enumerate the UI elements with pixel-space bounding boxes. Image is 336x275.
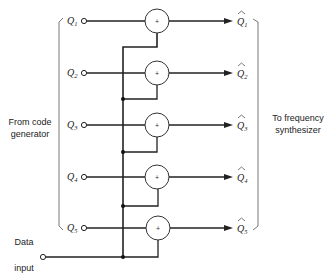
junction-dot	[121, 150, 125, 154]
svg-text:Q1: Q1	[67, 15, 77, 27]
row-4: Q4 + Q4	[67, 165, 248, 208]
row-1: Q1 + Q1	[67, 9, 247, 33]
junction-dot	[121, 204, 125, 208]
input-terminal[interactable]	[81, 122, 86, 127]
input-terminal[interactable]	[81, 174, 86, 179]
plus-icon: +	[155, 18, 159, 25]
hat-icon	[238, 63, 245, 66]
left-caption-line2: generator	[11, 129, 50, 139]
modulo-adder-diagram: From code generator To frequency synthes…	[0, 0, 336, 275]
data-input-terminal[interactable]	[40, 254, 45, 259]
data-input-wire	[46, 240, 158, 257]
input-terminal[interactable]	[81, 225, 86, 230]
arrow-icon	[224, 225, 233, 231]
data-input-line1: Data	[14, 237, 33, 247]
arrow-icon	[224, 70, 233, 76]
svg-text:Q4: Q4	[237, 172, 248, 184]
hat-icon	[238, 115, 245, 118]
data-input-line2: input	[14, 263, 34, 273]
svg-text:Q3: Q3	[67, 119, 78, 131]
svg-text:Q2: Q2	[67, 67, 78, 79]
plus-icon: +	[155, 70, 159, 77]
row-3: Q3 + Q3	[67, 113, 248, 154]
arrow-icon	[224, 18, 233, 24]
plus-icon: +	[155, 174, 159, 181]
svg-text:Q1: Q1	[237, 16, 247, 28]
svg-text:Q5: Q5	[237, 223, 248, 235]
svg-text:Q5: Q5	[67, 222, 78, 234]
plus-icon: +	[156, 225, 160, 232]
right-caption-line1: To frequency	[272, 113, 324, 123]
hat-icon	[238, 167, 245, 170]
junction-dot	[121, 255, 125, 259]
arrow-icon	[224, 174, 233, 180]
row-2: Q2 + Q2	[67, 61, 248, 101]
input-terminal[interactable]	[81, 70, 86, 75]
right-brace	[253, 19, 258, 230]
hat-icon	[238, 218, 245, 221]
right-caption-line2: synthesizer	[275, 125, 321, 135]
hat-icon	[238, 11, 245, 14]
arrow-icon	[224, 122, 233, 128]
plus-icon: +	[155, 122, 159, 129]
junction-dot	[121, 97, 125, 101]
input-terminal[interactable]	[81, 18, 86, 23]
svg-text:Q4: Q4	[67, 171, 78, 183]
svg-text:Q2: Q2	[237, 68, 248, 80]
row-5: Q5 + Q5	[67, 216, 248, 240]
svg-text:Q3: Q3	[237, 120, 248, 132]
left-brace	[59, 18, 63, 230]
left-caption-line1: From code	[8, 117, 51, 127]
